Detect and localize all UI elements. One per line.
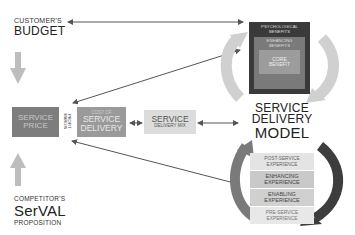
down-arrow-icon [10,68,26,84]
profit-margin-label: PROFIT MARGIN [62,107,72,137]
arrow-margin-benefits [73,50,240,103]
cost-of-service-delivery-box: COST OF SERVICE DELIVERY [77,107,126,137]
up-arrow-icon [10,153,26,168]
enhancing-benefits-box: ENHANCING BENEFITS CORE BENEFIT [254,37,305,89]
enhancing-experience: ENHANCING EXPERIENCE [250,171,314,188]
serval-label: SerVAL [14,203,66,218]
enabling-experience: ENABLING EXPERIENCE [250,189,314,206]
proposition-label: PROPOSITION [14,220,61,227]
price-line2: PRICE [23,122,47,130]
customers-label: CUSTOMER'S [14,17,62,24]
pre-service-experience: PRE-SERVICE EXPERIENCE [250,207,314,224]
experience-stack: POST-SERVICE EXPERIENCE ENHANCING EXPERI… [250,153,314,224]
arrow-margin-experience [72,141,238,184]
psychological-benefits-box: PSYCHOLOGICAL BENEFITS ENHANCING BENEFIT… [249,22,310,94]
core-benefit-box: CORE BENEFIT [259,50,300,74]
post-service-experience: POST-SERVICE EXPERIENCE [250,153,314,170]
service-delivery-model-title: SERVICE DELIVERY MODEL [240,103,324,140]
service-delivery-mix-box: SERVICE DELIVERY MIX [144,110,196,134]
budget-label: BUDGET [14,25,65,37]
service-price-box: SERVICE PRICE [12,107,59,137]
